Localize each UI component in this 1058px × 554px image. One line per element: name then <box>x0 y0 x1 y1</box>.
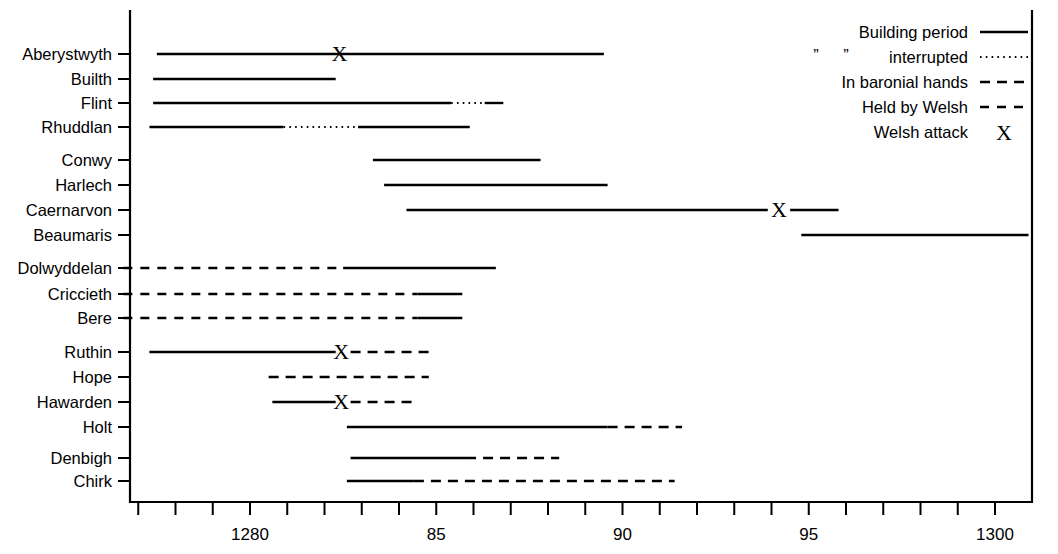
category-labels: AberystwythBuilthFlintRhuddlanConwyHarle… <box>18 45 130 490</box>
legend-interrupted-label: interrupted <box>889 48 968 66</box>
legend-interrupted: interrupted”” <box>813 46 1028 66</box>
category-label-dolwyddelan: Dolwyddelan <box>18 259 112 277</box>
legend-in-baronial-hands-label: In baronial hands <box>841 73 968 91</box>
category-label-flint: Flint <box>81 94 113 112</box>
legend-in-baronial-hands: In baronial hands <box>841 73 1028 91</box>
category-label-conwy: Conwy <box>62 151 113 169</box>
legend-held-by-welsh: Held by Welsh <box>862 98 1028 116</box>
legend: Building periodinterrupted””In baronial … <box>813 23 1028 145</box>
category-label-caernarvon: Caernarvon <box>26 201 112 219</box>
axis-tick-label-1300: 1300 <box>976 525 1014 544</box>
ditto-quote-right: ” <box>843 46 849 64</box>
category-label-beaumaris: Beaumaris <box>33 226 112 244</box>
legend-welsh-attack-label: Welsh attack <box>874 123 969 141</box>
category-label-harlech: Harlech <box>55 176 112 194</box>
legend-building-period: Building period <box>859 23 1028 41</box>
axis-tick-label-1280: 1280 <box>231 525 269 544</box>
welsh-attack-marker: X <box>771 197 787 222</box>
welsh-attack-icon: X <box>996 120 1012 145</box>
legend-welsh-attack: Welsh attackX <box>874 120 1012 145</box>
timeline-row-aberystwyth: X <box>157 41 604 66</box>
category-label-aberystwyth: Aberystwyth <box>22 45 112 63</box>
timeline-chart-svg: Building periodinterrupted””In baronial … <box>0 0 1058 554</box>
category-label-bere: Bere <box>77 309 112 327</box>
category-label-hope: Hope <box>73 368 112 386</box>
category-label-hawarden: Hawarden <box>37 393 112 411</box>
ditto-quote-left: ” <box>813 46 819 64</box>
axis-tick-label-1295: 95 <box>799 525 818 544</box>
timeline-row-ruthin: X <box>149 339 428 364</box>
axis-tick-label-1285: 85 <box>427 525 446 544</box>
legend-held-by-welsh-label: Held by Welsh <box>862 98 968 116</box>
axis-tick-label-1290: 90 <box>613 525 632 544</box>
welsh-attack-marker: X <box>331 41 347 66</box>
axis-ticks <box>138 502 995 515</box>
category-label-holt: Holt <box>83 418 113 436</box>
welsh-attack-marker: X <box>333 389 349 414</box>
chart-figure: Building periodinterrupted””In baronial … <box>0 0 1058 554</box>
category-label-ruthin: Ruthin <box>64 343 112 361</box>
category-label-criccieth: Criccieth <box>48 285 112 303</box>
axis-tick-labels: 12808590951300 <box>231 525 1014 544</box>
category-label-chirk: Chirk <box>73 472 112 490</box>
timeline-row-hawarden: X <box>272 389 414 414</box>
legend-building-period-label: Building period <box>859 23 968 41</box>
category-label-rhuddlan: Rhuddlan <box>41 118 112 136</box>
timeline-row-caernarvon: X <box>406 197 838 222</box>
category-label-denbigh: Denbigh <box>51 449 112 467</box>
welsh-attack-marker: X <box>333 339 349 364</box>
category-label-builth: Builth <box>71 70 112 88</box>
